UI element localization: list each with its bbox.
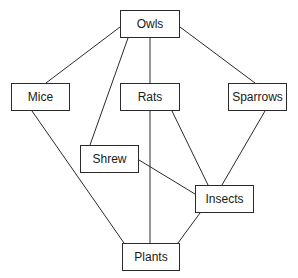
node-shrew-label: Shrew [92, 152, 126, 166]
node-rats: Rats [120, 83, 180, 111]
node-sparrows-label: Sparrows [232, 90, 283, 104]
node-mice-label: Mice [28, 90, 53, 104]
node-plants: Plants [122, 243, 180, 271]
node-insects: Insects [195, 185, 254, 213]
node-shrew: Shrew [80, 145, 139, 173]
node-rats-label: Rats [138, 90, 163, 104]
edge-shrew-insects [139, 160, 195, 194]
node-mice: Mice [11, 83, 70, 111]
node-plants-label: Plants [134, 250, 167, 264]
node-owls: Owls [120, 10, 180, 38]
node-sparrows: Sparrows [228, 83, 287, 111]
node-insects-label: Insects [205, 192, 243, 206]
node-owls-label: Owls [137, 17, 164, 31]
edge-owls-sparrows [180, 27, 255, 83]
food-web-edges [0, 0, 298, 278]
edge-owls-mice [46, 27, 120, 83]
edge-rats-insects [172, 111, 208, 185]
edge-sparrows-insects [222, 111, 265, 185]
edge-insects-plants [178, 213, 200, 243]
edge-mice-plants [32, 111, 124, 243]
